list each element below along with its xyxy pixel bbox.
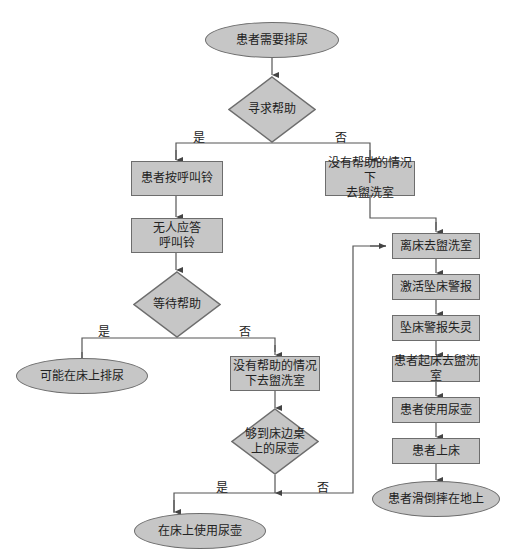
decision-wait-help: 等待帮助 [133, 271, 221, 338]
go-alone-mid-node: 没有帮助的情况 下去盥洗室 [230, 356, 320, 391]
use-urinal-node: 患者使用尿壶 [392, 397, 480, 423]
edge-label-no-3: 否 [317, 478, 329, 495]
back-bed-node: 患者上床 [392, 438, 480, 464]
seek-help-label: 寻求帮助 [248, 102, 296, 117]
decision-reach-urinal: 够到床边桌 上的尿壶 [231, 408, 319, 475]
urinate-bed-node: 可能在床上排尿 [16, 358, 148, 394]
go-alone-right-node: 没有帮助的情况下 去盥洗室 [325, 161, 415, 196]
start-node: 患者需要排尿 [205, 22, 339, 58]
edge-label-no-1: 否 [335, 128, 347, 145]
no-answer-node: 无人应答 呼叫铃 [131, 218, 223, 253]
edge-label-yes-3: 是 [216, 478, 228, 495]
use-urinal-bed-node: 在床上使用尿壶 [134, 513, 266, 549]
fall-node: 患者滑倒摔在地上 [372, 481, 500, 517]
start-label: 患者需要排尿 [236, 33, 308, 48]
edge-label-yes-1: 是 [193, 128, 205, 145]
get-up-node: 患者起床去盥洗室 [392, 356, 480, 382]
activate-alarm-node: 激活坠床警报 [392, 274, 480, 300]
alarm-fail-node: 坠床警报失灵 [392, 315, 480, 341]
edge-label-no-2: 否 [239, 322, 251, 339]
edge-label-yes-2: 是 [98, 322, 110, 339]
press-bell-node: 患者按呼叫铃 [131, 161, 223, 196]
leave-bed-node: 离床去盥洗室 [392, 233, 480, 259]
decision-seek-help: 寻求帮助 [228, 76, 316, 143]
